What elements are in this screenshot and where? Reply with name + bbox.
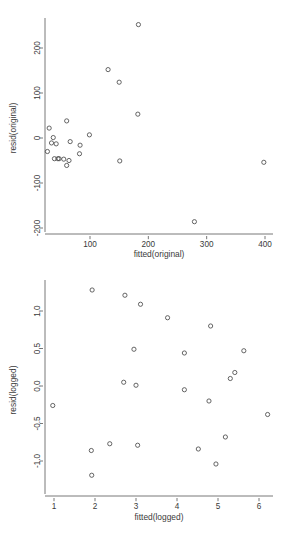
x-tick-label: 400 (258, 240, 272, 249)
data-point (165, 316, 169, 320)
data-point (182, 388, 186, 392)
data-point (106, 68, 110, 72)
y-tick-label: 0 (33, 135, 42, 140)
data-point (108, 442, 112, 446)
plot-axes-original (45, 18, 273, 234)
data-point (233, 370, 237, 374)
x-axis-label-original: fitted(original) (134, 249, 185, 259)
y-tick-label: 100 (33, 86, 42, 100)
data-point (65, 163, 69, 167)
data-point (182, 351, 186, 355)
data-point (262, 160, 266, 164)
data-point (90, 288, 94, 292)
data-point (68, 140, 72, 144)
x-tick-label: 300 (200, 240, 214, 249)
data-point (207, 399, 211, 403)
x-axis-label-logged: fitted(logged) (135, 512, 184, 522)
data-point (136, 23, 140, 27)
data-point (136, 443, 140, 447)
scatter-plot-logged: 1234561.00.50.0-0.5-1.0 fitted(logged) r… (0, 270, 286, 540)
data-point (65, 119, 69, 123)
y-tick-label: 0.5 (33, 342, 42, 354)
plot-panel-logged: 1234561.00.50.0-0.5-1.0 fitted(logged) r… (0, 270, 286, 540)
data-point (117, 80, 121, 84)
data-point (214, 462, 218, 466)
y-tick-label: 1.0 (33, 305, 42, 317)
x-tick-label: 4 (175, 502, 180, 511)
data-point (78, 143, 82, 147)
residual-diagnostics-figure: 1002003004002001000-100-200 fitted(origi… (0, 0, 286, 540)
y-tick-label: 0.0 (33, 380, 42, 392)
x-tick-label: 1 (52, 502, 57, 511)
data-point (196, 447, 200, 451)
data-point (122, 380, 126, 384)
x-tick-label: 5 (216, 502, 221, 511)
data-points-logged (51, 288, 270, 477)
scatter-plot-original: 1002003004002001000-100-200 fitted(origi… (0, 0, 286, 270)
data-point (242, 349, 246, 353)
y-tick-label: 200 (33, 41, 42, 55)
y-tick-label: -0.5 (33, 416, 42, 431)
data-point (228, 376, 232, 380)
data-point (266, 412, 270, 416)
x-tick-label: 3 (134, 502, 139, 511)
x-tick-label: 100 (83, 240, 97, 249)
data-point (45, 149, 49, 153)
axis-tick-labels-logged: 1234561.00.50.0-0.5-1.0 (33, 305, 262, 512)
plot-axes-logged (45, 280, 273, 496)
data-point (77, 152, 81, 156)
data-point (89, 448, 93, 452)
axis-ticks-logged (40, 311, 259, 501)
x-tick-label: 2 (93, 502, 98, 511)
data-point (54, 142, 58, 146)
data-point (47, 126, 51, 130)
data-point (49, 141, 53, 145)
data-point (123, 293, 127, 297)
y-axis-label-original: resid(original) (8, 102, 18, 153)
y-tick-label: -100 (33, 174, 42, 191)
data-point (136, 112, 140, 116)
data-point (209, 324, 213, 328)
data-point (62, 157, 66, 161)
y-tick-label: -200 (33, 219, 42, 236)
axis-ticks-original (40, 48, 265, 239)
data-point (51, 403, 55, 407)
data-point (87, 133, 91, 137)
y-axis-label-logged: resid(logged) (8, 365, 18, 414)
data-point (90, 473, 94, 477)
data-point (134, 383, 138, 387)
plot-panel-original: 1002003004002001000-100-200 fitted(origi… (0, 0, 286, 270)
data-point (223, 435, 227, 439)
data-point (192, 220, 196, 224)
data-point (67, 158, 71, 162)
data-point (138, 302, 142, 306)
y-tick-label: -1.0 (33, 453, 42, 468)
data-point (51, 135, 55, 139)
data-points-original (45, 23, 266, 224)
x-tick-label: 6 (257, 502, 262, 511)
data-point (132, 347, 136, 351)
axis-tick-labels-original: 1002003004002001000-100-200 (33, 41, 272, 250)
data-point (118, 159, 122, 163)
